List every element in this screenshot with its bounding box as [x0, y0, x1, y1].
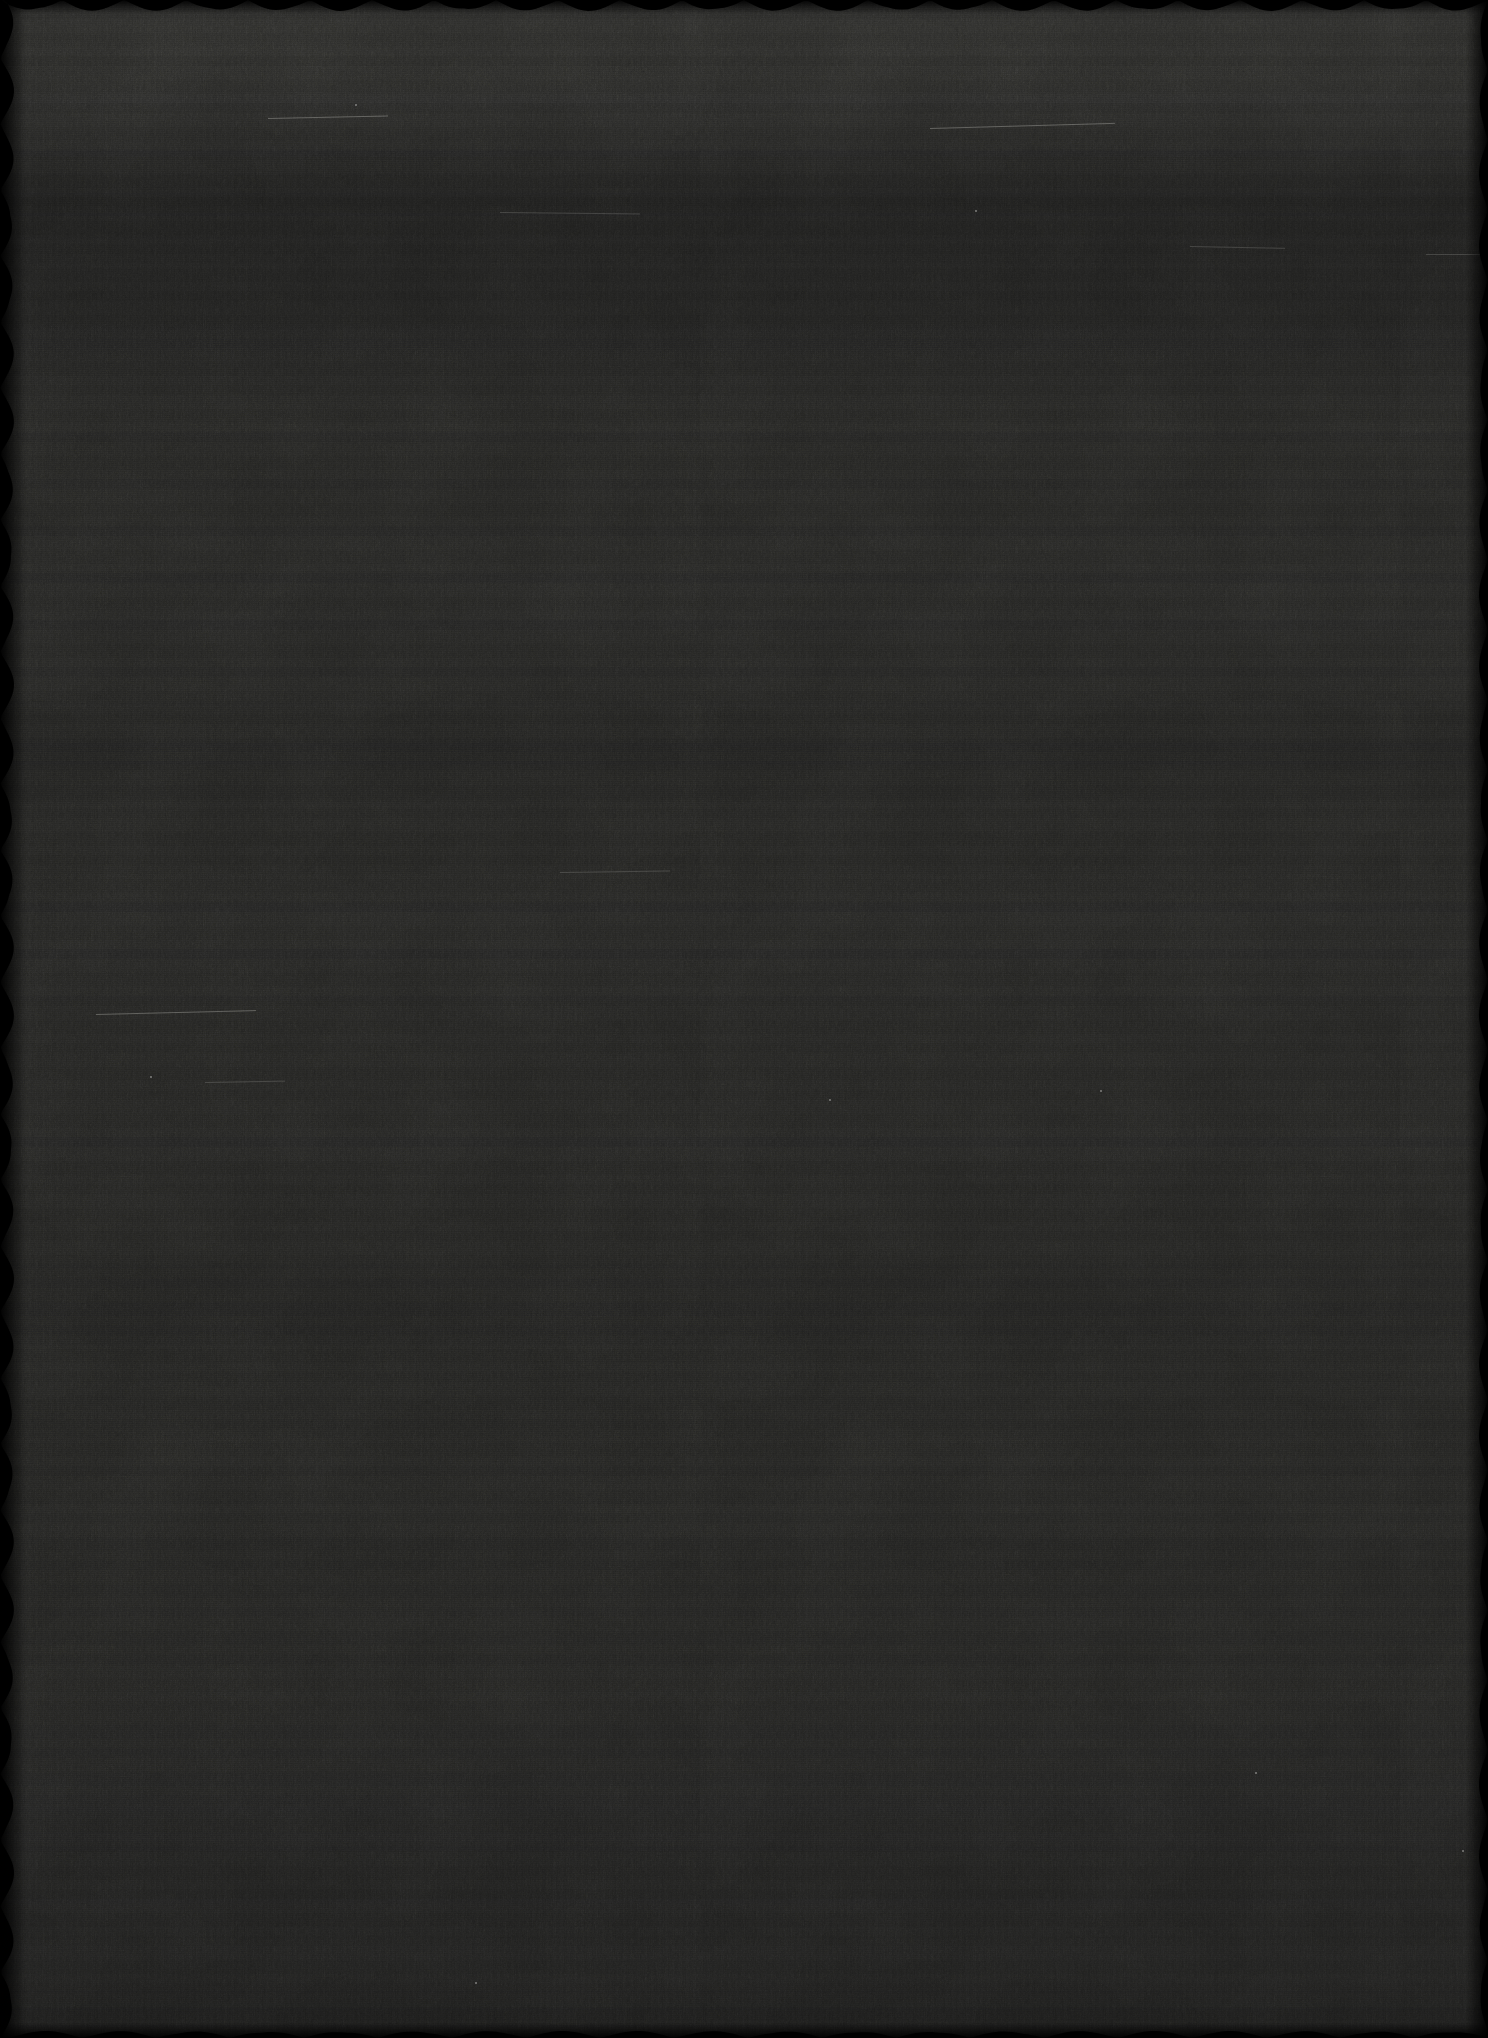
- emulsion-scratch: [930, 123, 1115, 129]
- coarse-film-grain-layer: [0, 0, 1488, 2038]
- dust-speck: [150, 1076, 152, 1078]
- emulsion-scratch: [500, 212, 640, 214]
- broad-scanline-banding-layer: [0, 0, 1488, 2038]
- dust-speck: [1255, 1772, 1257, 1774]
- dust-speck: [829, 1099, 831, 1101]
- fine-scanline-banding-layer: [0, 0, 1488, 2038]
- low-frequency-mottle-layer: [0, 0, 1488, 2038]
- stretched-weave-grain-layer: [0, 0, 1488, 2038]
- emulsion-scratch: [1426, 254, 1486, 255]
- emulsion-scratch: [560, 870, 670, 873]
- emulsion-scratch: [96, 1010, 256, 1015]
- emulsion-artifact-layer: [0, 0, 1488, 2038]
- emulsion-scratch: [1190, 246, 1285, 249]
- dust-speck: [975, 210, 977, 212]
- dust-speck: [355, 104, 357, 106]
- edge-vignette-layer: [0, 0, 1488, 2038]
- scanned-photo-frame: [0, 0, 1488, 2038]
- emulsion-scratch: [205, 1081, 285, 1083]
- deckle-edge-shape: [0, 0, 1488, 2038]
- dust-speck: [1100, 1090, 1102, 1092]
- base-tone-layer: [0, 0, 1488, 2038]
- dust-speck: [1462, 1850, 1464, 1852]
- dust-speck: [475, 1982, 477, 1984]
- horizontal-band-patches-layer: [0, 0, 1488, 2038]
- fine-film-grain-layer: [0, 0, 1488, 2038]
- deckle-edge-mask: [0, 0, 1488, 2038]
- horizontal-smear-layer: [0, 0, 1488, 2038]
- vertical-luminance-drift-layer: [0, 0, 1488, 2038]
- emulsion-scratch: [268, 115, 388, 119]
